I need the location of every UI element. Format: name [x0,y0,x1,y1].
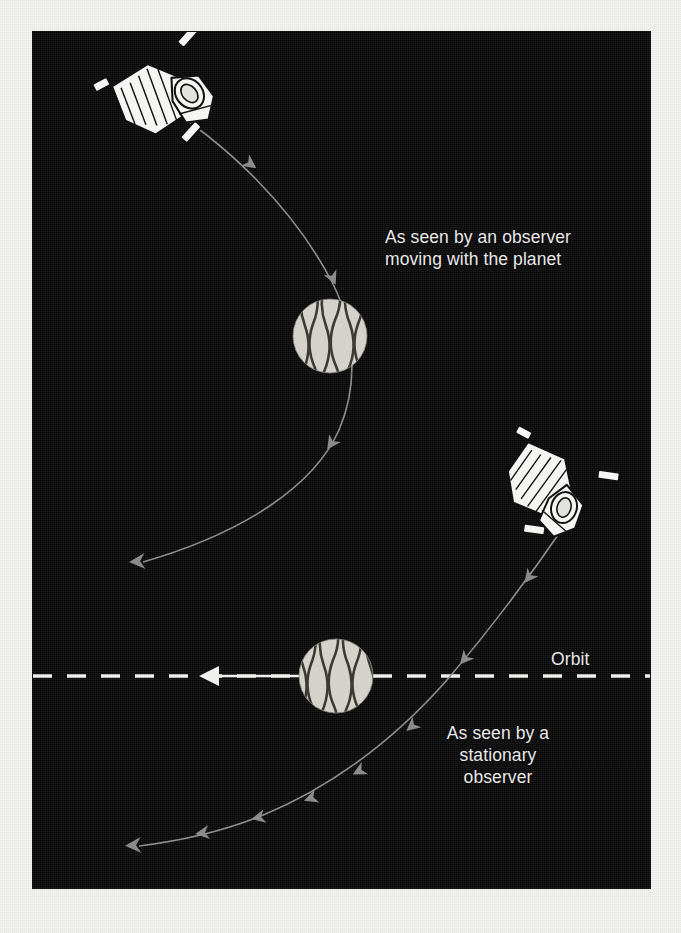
orbit-direction-arrow [199,666,219,686]
spacecraft-lower [468,406,623,560]
caption-stationary-observer: As seen by a stationary observer [423,722,573,788]
diagram-canvas: As seen by an observer moving with the p… [33,32,650,888]
spacecraft-upper [84,32,230,166]
caption-moving-observer: As seen by an observer moving with the p… [385,226,571,270]
caption-orbit-label: Orbit [551,648,589,670]
figure-page: As seen by an observer moving with the p… [0,0,681,933]
planet-lower [299,639,373,713]
planet-frame-group [84,32,367,570]
planet-upper [293,299,367,373]
